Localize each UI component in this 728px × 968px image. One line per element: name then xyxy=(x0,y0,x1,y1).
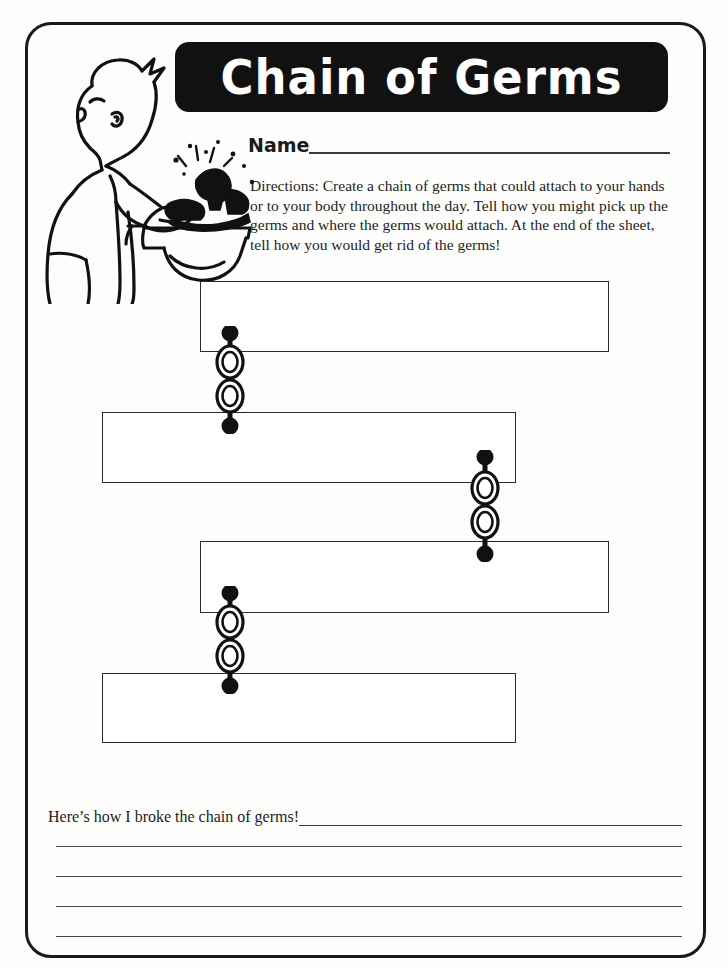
writing-line[interactable] xyxy=(56,876,682,877)
chain-link-connector-3 xyxy=(213,586,247,694)
chain-link-connector-2 xyxy=(468,450,502,562)
bottom-prompt-row: Here’s how I broke the chain of germs! xyxy=(48,803,682,827)
page-title: Chain of Germs xyxy=(220,48,622,105)
chain-box-2[interactable] xyxy=(102,412,516,483)
name-input-line[interactable] xyxy=(309,152,670,154)
chain-box-4[interactable] xyxy=(102,673,516,743)
directions-text: Directions: Create a chain of germs that… xyxy=(250,176,678,254)
name-label: Name xyxy=(248,136,309,156)
worksheet-page: Chain of Germs Name Directions: Create a… xyxy=(0,0,728,968)
title-banner: Chain of Germs xyxy=(175,42,668,112)
writing-line[interactable] xyxy=(56,906,682,907)
bottom-prompt-label: Here’s how I broke the chain of germs! xyxy=(48,809,299,827)
chain-box-3[interactable] xyxy=(200,541,609,613)
chain-box-1[interactable] xyxy=(200,281,609,352)
writing-line[interactable] xyxy=(56,846,682,847)
bottom-prompt-input-line[interactable] xyxy=(299,825,682,826)
name-row: Name xyxy=(248,126,670,156)
chain-link-connector-1 xyxy=(213,326,247,434)
writing-line[interactable] xyxy=(56,936,682,937)
